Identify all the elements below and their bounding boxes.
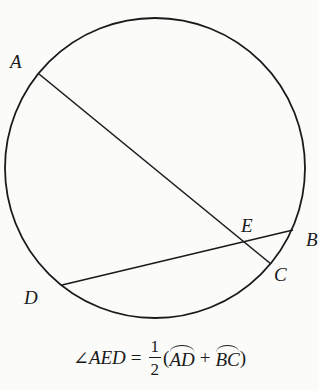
fraction-denominator: 2 (151, 358, 160, 378)
chord-ac (39, 74, 271, 264)
arc-ad: AD (169, 345, 194, 371)
circle-diagram: A B C D E (0, 0, 319, 330)
fraction-one-half: 1 2 (149, 338, 162, 378)
point-label-c: C (274, 264, 287, 285)
plus-sign: + (200, 347, 211, 369)
equals-sign: = (131, 347, 142, 369)
angle-name: AED (89, 347, 126, 369)
angle-formula: ∠ AED = 1 2 ( AD + BC ) (0, 338, 319, 378)
point-label-e: E (240, 215, 253, 236)
point-label-d: D (23, 287, 38, 308)
angle-symbol: ∠ (73, 347, 89, 370)
close-paren: ) (240, 347, 246, 369)
point-label-b: B (306, 229, 318, 250)
fraction-numerator: 1 (149, 338, 162, 358)
arc-bc: BC (215, 345, 239, 371)
point-label-a: A (8, 51, 22, 72)
